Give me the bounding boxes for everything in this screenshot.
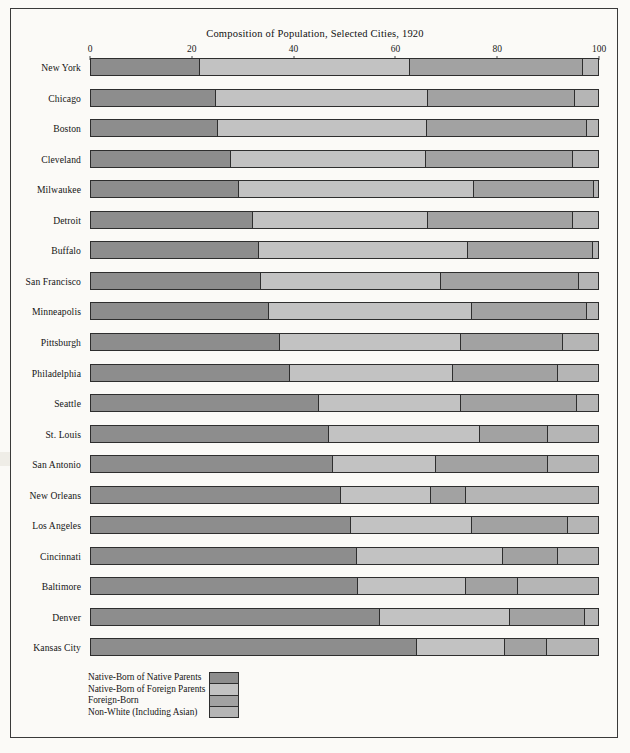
stacked-bar bbox=[90, 547, 599, 565]
bar-segment bbox=[268, 303, 471, 319]
bar-segment bbox=[230, 151, 425, 167]
category-label: Denver bbox=[52, 611, 81, 622]
bar-segment bbox=[547, 456, 597, 472]
bar-segment bbox=[427, 90, 575, 106]
plot-area: New YorkChicagoBostonClevelandMilwaukeeD… bbox=[90, 58, 599, 658]
bar-segment bbox=[416, 639, 504, 655]
legend-label: Native-Born of Foreign Parents bbox=[88, 684, 205, 696]
bar-segment bbox=[252, 212, 426, 228]
category-label: Minneapolis bbox=[32, 306, 81, 317]
stacked-bar bbox=[90, 150, 599, 168]
bar-segment bbox=[91, 456, 332, 472]
chart-row: Buffalo bbox=[90, 241, 599, 259]
bar-segment bbox=[91, 90, 215, 106]
scan-artifact bbox=[0, 460, 10, 466]
bar-segment bbox=[215, 90, 427, 106]
category-label: Buffalo bbox=[51, 245, 81, 256]
chart-row: San Francisco bbox=[90, 272, 599, 290]
bar-segment bbox=[217, 120, 425, 136]
bar-segment bbox=[379, 609, 509, 625]
bar-segment bbox=[91, 151, 230, 167]
bar-segment bbox=[350, 517, 471, 533]
chart-row: Philadelphia bbox=[90, 364, 599, 382]
bar-segment bbox=[502, 548, 557, 564]
legend-swatch-foreign-born bbox=[210, 696, 238, 707]
bar-segment bbox=[91, 578, 357, 594]
bar-segment bbox=[576, 395, 598, 411]
legend-swatch-native-born-native-parents bbox=[210, 673, 238, 684]
category-label: Chicago bbox=[48, 92, 81, 103]
bar-segment bbox=[584, 609, 598, 625]
bar-segment bbox=[91, 487, 340, 503]
chart-title: Composition of Population, Selected Citi… bbox=[0, 28, 630, 39]
stacked-bar bbox=[90, 89, 599, 107]
stacked-bar bbox=[90, 516, 599, 534]
category-label: Milwaukee bbox=[37, 184, 81, 195]
stacked-bar bbox=[90, 455, 599, 473]
bar-segment bbox=[356, 548, 502, 564]
category-label: Pittsburgh bbox=[41, 336, 81, 347]
bar-segment bbox=[471, 303, 586, 319]
category-label: Baltimore bbox=[42, 581, 81, 592]
legend-labels: Native-Born of Native ParentsNative-Born… bbox=[88, 672, 209, 718]
category-label: St. Louis bbox=[45, 428, 81, 439]
legend-label: Non-White (Including Asian) bbox=[88, 707, 205, 719]
bar-segment bbox=[572, 151, 598, 167]
chart-row: Milwaukee bbox=[90, 180, 599, 198]
bar-segment bbox=[357, 578, 464, 594]
legend-label: Native-Born of Native Parents bbox=[88, 672, 205, 684]
chart-row: Los Angeles bbox=[90, 516, 599, 534]
bar-segment bbox=[91, 639, 416, 655]
bar-segment bbox=[582, 59, 598, 75]
stacked-bar bbox=[90, 58, 599, 76]
chart-row: New Orleans bbox=[90, 486, 599, 504]
bar-segment bbox=[91, 59, 199, 75]
bar-segment bbox=[279, 334, 459, 350]
chart-row: New York bbox=[90, 58, 599, 76]
stacked-bar bbox=[90, 272, 599, 290]
stacked-bar bbox=[90, 302, 599, 320]
bar-segment bbox=[467, 242, 592, 258]
bar-segment bbox=[91, 365, 289, 381]
bar-segment bbox=[586, 303, 598, 319]
chart-row: Kansas City bbox=[90, 638, 599, 656]
legend-swatches bbox=[209, 672, 239, 718]
chart-row: Cleveland bbox=[90, 150, 599, 168]
bar-segment bbox=[238, 181, 473, 197]
bar-segment bbox=[199, 59, 408, 75]
chart-row: San Antonio bbox=[90, 455, 599, 473]
bar-segment bbox=[546, 639, 598, 655]
bar-segment bbox=[586, 120, 598, 136]
category-label: Los Angeles bbox=[32, 520, 81, 531]
bar-segment bbox=[91, 212, 252, 228]
bar-segment bbox=[260, 273, 439, 289]
bar-segment bbox=[91, 303, 268, 319]
bar-segment bbox=[427, 212, 573, 228]
bar-segment bbox=[430, 487, 465, 503]
bar-segment bbox=[593, 181, 598, 197]
category-label: San Antonio bbox=[32, 459, 81, 470]
chart-legend: Native-Born of Native ParentsNative-Born… bbox=[88, 672, 239, 718]
bar-segment bbox=[578, 273, 598, 289]
bar-segment bbox=[557, 365, 597, 381]
bar-segment bbox=[572, 212, 598, 228]
chart-row: Seattle bbox=[90, 394, 599, 412]
bar-segment bbox=[471, 517, 567, 533]
x-tick-label: 100 bbox=[592, 44, 606, 54]
bar-segment bbox=[504, 639, 546, 655]
chart-row: Cincinnati bbox=[90, 547, 599, 565]
bar-segment bbox=[91, 242, 258, 258]
stacked-bar bbox=[90, 608, 599, 626]
chart-row: Chicago bbox=[90, 89, 599, 107]
bar-segment bbox=[91, 548, 356, 564]
stacked-bar bbox=[90, 638, 599, 656]
stacked-bar bbox=[90, 394, 599, 412]
figure-canvas: Composition of Population, Selected Citi… bbox=[0, 0, 630, 753]
bar-segment bbox=[91, 395, 318, 411]
bar-segment bbox=[592, 242, 598, 258]
bar-segment bbox=[452, 365, 557, 381]
category-label: Cleveland bbox=[41, 153, 81, 164]
x-tick-label: 60 bbox=[391, 44, 401, 54]
bar-segment bbox=[91, 426, 328, 442]
chart-row: Minneapolis bbox=[90, 302, 599, 320]
